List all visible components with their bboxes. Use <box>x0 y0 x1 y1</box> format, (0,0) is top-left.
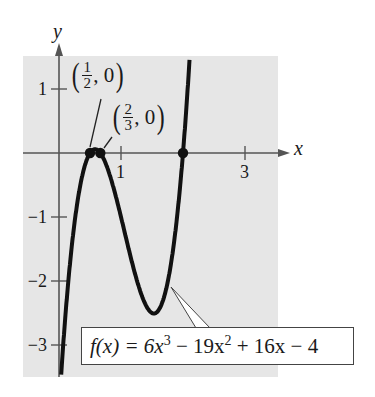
y-axis-label: y <box>51 20 62 43</box>
point-label-half: ( 12 , 0 ) <box>70 58 126 92</box>
y-tick-label: −3 <box>28 335 47 355</box>
zero-point-marker <box>95 148 105 158</box>
y-tick-label: −1 <box>28 207 47 227</box>
function-formula-label: f(x) = 6x3 − 19x2 + 16x − 4 <box>81 327 354 365</box>
formula-lhs: f(x) = 6x <box>90 334 164 358</box>
formula-rhs: + 16x − 4 <box>231 334 318 358</box>
frac-numerator: 1 <box>84 60 92 75</box>
x-axis-label: x <box>293 137 303 159</box>
x-tick-label: 3 <box>240 162 249 182</box>
point-y: 0 <box>104 63 115 88</box>
y-tick-label: 1 <box>38 79 47 99</box>
point-label-two-thirds: ( 23 , 0 ) <box>111 100 167 134</box>
zero-point-marker <box>85 148 95 158</box>
y-axis-arrow-icon <box>55 43 63 56</box>
frac-denominator: 3 <box>125 118 133 133</box>
x-tick-label: 1 <box>116 162 125 182</box>
formula-mid: − 19x <box>171 334 225 358</box>
frac-numerator: 2 <box>125 102 133 117</box>
frac-denominator: 2 <box>84 76 92 91</box>
zero-point-marker <box>178 148 188 158</box>
x-axis-arrow-icon <box>278 149 290 157</box>
y-tick-label: −2 <box>28 271 47 291</box>
point-y: 0 <box>145 105 156 130</box>
formula-exp-3: 3 <box>164 333 171 348</box>
